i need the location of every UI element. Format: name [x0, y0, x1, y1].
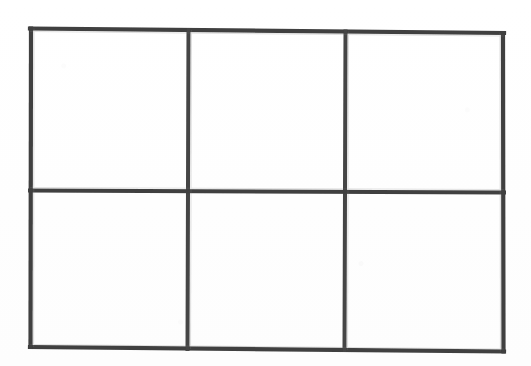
grid-cell-r2c1[interactable]: [33, 194, 185, 345]
grid-cell-r1c2[interactable]: [191, 33, 342, 189]
grid-cell-r2c3[interactable]: [348, 196, 501, 348]
page-canvas: [0, 0, 531, 366]
grid-cell-r2c2[interactable]: [191, 195, 342, 346]
grid-cell-r1c1[interactable]: [33, 32, 185, 188]
grid-cell-r1c3[interactable]: [348, 35, 501, 191]
